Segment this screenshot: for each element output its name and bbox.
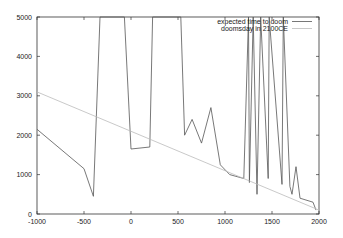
- y-tick-label: 4000: [16, 53, 32, 60]
- x-axis: -1000-5000500100015002000: [28, 17, 327, 225]
- x-tick-label: -1000: [28, 218, 46, 225]
- y-tick-label: 5000: [16, 14, 32, 21]
- x-tick-label: 2000: [311, 218, 327, 225]
- legend: expected time to doomdoomsday in 2100CE: [217, 18, 312, 33]
- legend-label: doomsday in 2100CE: [221, 25, 288, 33]
- x-tick-label: -500: [77, 218, 91, 225]
- x-tick-label: 1000: [217, 218, 233, 225]
- y-axis: 010002000300040005000: [16, 14, 319, 218]
- y-tick-label: 3000: [16, 92, 32, 99]
- series-lines: [37, 17, 319, 210]
- y-tick-label: 0: [28, 211, 32, 218]
- y-tick-label: 1000: [16, 171, 32, 178]
- chart: 010002000300040005000 -1000-500050010001…: [0, 0, 343, 238]
- series-line-1: [37, 92, 319, 210]
- y-tick-label: 2000: [16, 132, 32, 139]
- series-line-0: [37, 17, 316, 210]
- x-tick-label: 500: [172, 218, 184, 225]
- x-tick-label: 0: [129, 218, 133, 225]
- x-tick-label: 1500: [264, 218, 280, 225]
